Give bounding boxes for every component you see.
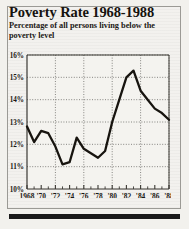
y-tick-label: 14% xyxy=(10,96,24,104)
plot-area: 10%11%12%13%14%15%16%1968'70'72'74'76'78… xyxy=(3,43,171,198)
x-tick-label: '84 xyxy=(136,192,146,199)
chart-subtitle: Percentage of all persons living below t… xyxy=(9,21,167,40)
x-tick-label: '80 xyxy=(107,192,117,199)
x-tick-label: '76 xyxy=(79,192,89,199)
x-tick-label: '70 xyxy=(36,192,46,199)
x-tick-label: 1968 xyxy=(20,192,35,199)
y-tick-label: 16% xyxy=(10,52,24,60)
chart-title: Poverty Rate 1968-1988 xyxy=(9,4,169,20)
x-tick-label: '72 xyxy=(51,192,61,199)
y-tick-label: 13% xyxy=(10,119,24,127)
y-tick-label: 15% xyxy=(10,74,24,82)
x-tick-label: '82 xyxy=(122,192,132,199)
x-tick-label: '86 xyxy=(150,192,160,199)
poverty-rate-line-chart: 10%11%12%13%14%15%16%1968'70'72'74'76'78… xyxy=(3,43,171,198)
chart-screenshot: Poverty Rate 1968-1988 Percentage of all… xyxy=(0,0,189,229)
x-tick-label: '88 xyxy=(164,192,171,199)
y-tick-label: 12% xyxy=(10,141,24,149)
x-tick-label: '74 xyxy=(65,192,75,199)
x-tick-label: '78 xyxy=(93,192,103,199)
y-tick-label: 11% xyxy=(10,163,24,171)
footer-rule xyxy=(9,214,180,219)
